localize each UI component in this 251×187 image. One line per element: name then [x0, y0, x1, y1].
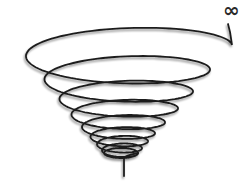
- infinity-label: ∞: [223, 0, 240, 20]
- spiral-diagram: [0, 0, 251, 187]
- spiral-curve: [26, 24, 232, 158]
- spiral-path: [26, 24, 232, 176]
